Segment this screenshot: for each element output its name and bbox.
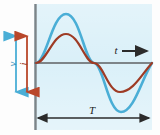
- ac-waveform-figure: v i t T: [0, 0, 160, 135]
- period-label: T: [89, 104, 96, 116]
- current-label: i: [17, 62, 29, 65]
- waveform-diagram: v i t T: [0, 0, 160, 135]
